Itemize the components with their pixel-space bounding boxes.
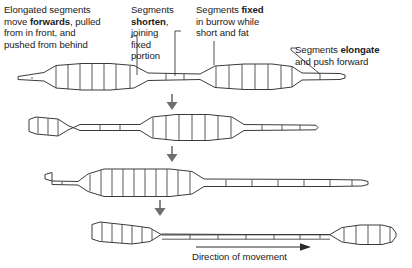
label-elongated-segments: Elongated segments move forwards, pulled…: [4, 4, 132, 50]
diagram-canvas: Elongated segments move forwards, pulled…: [0, 0, 412, 268]
label-segments-elongate-emphasis: elongate: [340, 44, 379, 55]
stage-transition-arrow-2: [167, 146, 178, 162]
label-direction-of-movement: Direction of movement: [192, 251, 322, 263]
stage-2-outline: [29, 115, 318, 141]
label-segments-elongate: Segments elongate and push forward: [295, 44, 411, 67]
stage-1-worm: [18, 64, 345, 91]
stage-4-outline: [92, 222, 396, 245]
label-segments-fixed: Segments fixed in burrow while short and…: [196, 4, 292, 39]
direction-of-movement-arrow: [196, 243, 311, 251]
stage-4-worm: [92, 222, 396, 245]
stage-3-outline: [45, 169, 368, 197]
stage-3-worm: [45, 169, 368, 197]
label-segments-fixed-emphasis: fixed: [241, 4, 263, 15]
label-segments-shorten-emphasis: shorten: [131, 16, 166, 27]
stage-transition-arrow-1: [167, 94, 178, 110]
label-segments-shorten: Segments shorten, joining fixed portion: [131, 4, 187, 62]
stage-1-outline: [18, 64, 345, 91]
stage-transition-arrow-3: [155, 200, 166, 216]
label-elongated-segments-emphasis: forwards: [30, 16, 70, 27]
stage-2-worm: [29, 115, 318, 141]
